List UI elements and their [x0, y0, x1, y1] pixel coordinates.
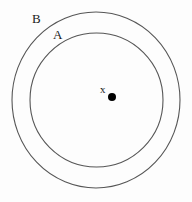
point-marker-x: [108, 93, 116, 101]
outer-circle-b: [12, 12, 180, 188]
label-outer-set-b: B: [32, 12, 41, 25]
label-point-x: x: [100, 84, 106, 95]
label-inner-set-a: A: [53, 28, 62, 41]
set-diagram-canvas: B A x: [0, 0, 192, 202]
diagram-vector-layer: [0, 0, 192, 202]
inner-circle-a: [30, 33, 163, 167]
